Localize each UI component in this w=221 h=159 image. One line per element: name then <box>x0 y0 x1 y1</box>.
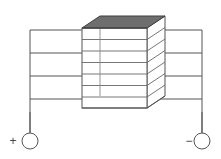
negative-sign-label: − <box>185 134 192 148</box>
positive-sign-label: + <box>9 134 16 148</box>
negative-terminal-group[interactable]: − <box>185 112 210 149</box>
positive-wiring-group <box>30 30 86 133</box>
stack-front-face <box>82 28 147 108</box>
negative-terminal-circle[interactable] <box>194 133 210 149</box>
figure-canvas: Isometric cell stack with positive and n… <box>0 0 221 159</box>
positive-terminal-circle[interactable] <box>22 133 38 149</box>
cell-stack-group <box>82 16 165 108</box>
positive-terminal-group[interactable]: + <box>9 112 38 149</box>
stack-diagram-svg: + − <box>0 0 221 159</box>
